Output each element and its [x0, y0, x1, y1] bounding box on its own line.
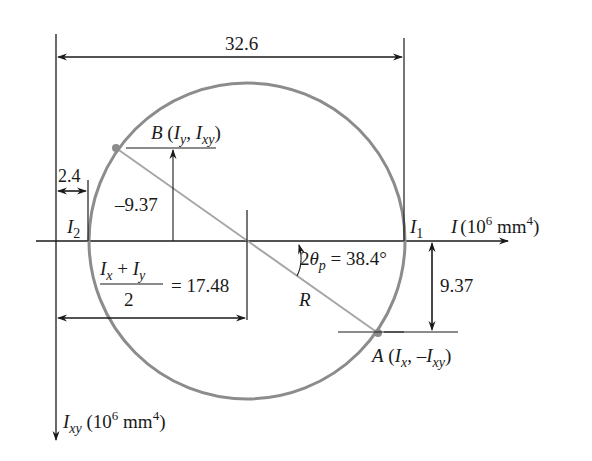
point-B-label: B (Iy, Ixy): [151, 122, 221, 147]
I1-label: I1: [409, 216, 423, 241]
vertical-axis-label: Ixy (106 mm4): [62, 408, 165, 436]
center-fraction-numerator: Ix + Iy: [99, 258, 146, 283]
radius-label: R: [298, 289, 311, 310]
center-value-label: = 17.48: [171, 275, 229, 296]
A-ordinate-label: 9.37: [440, 275, 473, 296]
offset-dimension-label: 2.4: [58, 166, 81, 186]
I2-label: I2: [66, 216, 80, 241]
horizontal-axis-label: I(106 mm4): [450, 213, 539, 238]
total-dimension-label: 32.6: [225, 33, 258, 54]
B-ordinate-label: –9.37: [114, 194, 158, 215]
angle-label: 2θp = 38.4°: [300, 248, 387, 273]
point-A-label: A (Ix, –Ixy): [370, 345, 451, 370]
point-B-marker: [112, 144, 120, 152]
mohr-circle-diagram: 32.6 2.4 –9.37 B (Iy, Ixy) Ix + Iy 2 = 1…: [0, 0, 592, 461]
center-fraction-denominator: 2: [124, 289, 134, 310]
point-A-marker: [374, 329, 382, 337]
